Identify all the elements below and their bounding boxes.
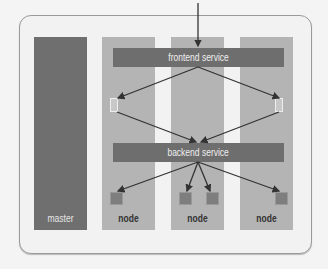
arrow-backend-to-node2a: [187, 162, 198, 191]
arrow-frontend-to-pod1: [118, 67, 198, 98]
arrow-backend-to-node1: [118, 162, 198, 191]
arrow-backend-to-node2b: [198, 162, 210, 191]
arrow-pod3-to-backend: [201, 112, 279, 142]
connection-arrows: [0, 0, 328, 269]
arrow-frontend-to-pod3: [198, 67, 279, 98]
arrow-backend-to-node3: [198, 162, 279, 191]
arrow-pod1-to-backend: [117, 112, 196, 142]
